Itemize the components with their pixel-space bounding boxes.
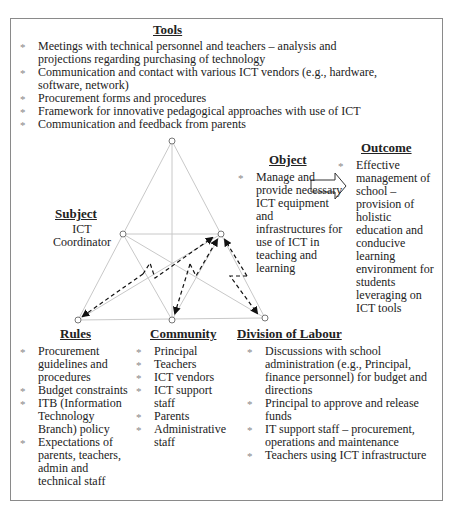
- rules-list: Procurement guidelines and procedures Bu…: [20, 345, 130, 488]
- subject-heading: Subject: [55, 206, 97, 221]
- node-tools: [169, 138, 175, 144]
- rules-item: ITB (Information Technology Branch) poli…: [20, 397, 130, 436]
- node-object: [218, 231, 224, 237]
- division-item: Teachers using ICT infrastructure: [247, 449, 437, 462]
- community-heading: Community: [150, 326, 216, 341]
- dashed-arrows: [83, 238, 257, 316]
- node-community: [169, 317, 175, 323]
- community-list: Principal Teachers ICT vendors ICT suppo…: [136, 345, 232, 449]
- division-item: IT support staff – procurement, operatio…: [247, 423, 437, 449]
- object-list: Manage and provide necessary ICT equipme…: [238, 171, 344, 275]
- node-division: [262, 315, 268, 321]
- object-heading: Object: [269, 152, 307, 167]
- division-list: Discussions with school administration (…: [247, 345, 437, 462]
- division-item: Principal to approve and release funds: [247, 397, 437, 423]
- division-item: Discussions with school administration (…: [247, 345, 437, 397]
- rules-item: Procurement guidelines and procedures: [20, 345, 130, 384]
- community-item: Administrative staff: [136, 423, 232, 449]
- subject-line2: Coordinator: [48, 236, 116, 249]
- division-heading: Division of Labour: [237, 326, 342, 341]
- outcome-list: Effective management of school – provisi…: [338, 159, 438, 315]
- outcome-item: Effective management of school – provisi…: [338, 159, 438, 315]
- outcome-heading: Outcome: [361, 140, 412, 155]
- rules-heading: Rules: [60, 326, 91, 341]
- object-item: Manage and provide necessary ICT equipme…: [238, 171, 344, 275]
- rules-item: Expectations of parents, teachers, admin…: [20, 436, 130, 488]
- community-item: ICT support staff: [136, 384, 232, 410]
- node-rules: [75, 317, 81, 323]
- subject-text: ICT Coordinator: [48, 223, 116, 249]
- node-subject: [120, 231, 126, 237]
